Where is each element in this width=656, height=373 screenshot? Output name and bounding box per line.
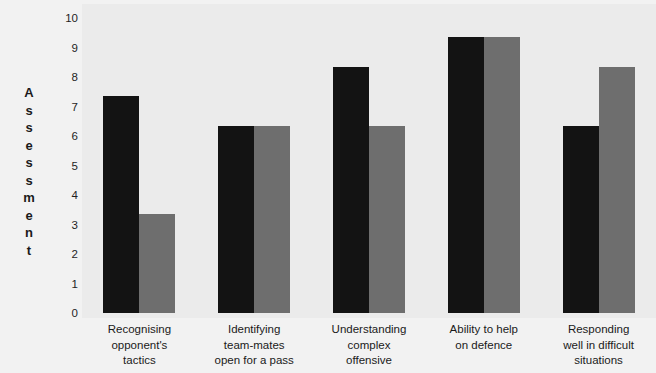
x-axis-category-label: Responding well in difficult situations [541, 322, 656, 369]
bar-chart: A s s e s s m e n t 109876543210 Recogni… [0, 0, 656, 373]
bar [103, 96, 139, 313]
x-axis-category-labels: Recognising opponent's tacticsIdentifyin… [82, 322, 656, 373]
x-axis-category-label: Recognising opponent's tactics [82, 322, 197, 369]
bar [333, 67, 369, 313]
y-axis-tick-label: 1 [52, 278, 78, 290]
y-axis-tick-label: 2 [52, 248, 78, 260]
y-axis-tick-label: 4 [52, 189, 78, 201]
plot-area [82, 4, 656, 318]
y-axis-tick-labels: 109876543210 [52, 0, 78, 373]
y-axis-tick-label: 8 [52, 71, 78, 83]
x-axis-category-label: Identifying team-mates open for a pass [197, 322, 312, 369]
bar [369, 126, 405, 313]
bar [448, 37, 484, 313]
bar [599, 67, 635, 313]
x-axis-category-label: Ability to help on defence [426, 322, 541, 353]
y-axis-tick-label: 10 [52, 12, 78, 24]
y-axis-tick-label: 6 [52, 130, 78, 142]
y-axis-tick-label: 7 [52, 101, 78, 113]
bar [218, 126, 254, 313]
bar [484, 37, 520, 313]
y-axis-tick-label: 3 [52, 219, 78, 231]
y-axis-tick-label: 9 [52, 42, 78, 54]
bar [563, 126, 599, 313]
y-axis-tick-label: 5 [52, 160, 78, 172]
bar [254, 126, 290, 313]
bar [139, 214, 175, 313]
x-axis-category-label: Understanding complex offensive [312, 322, 427, 369]
y-axis-title: A s s e s s m e n t [18, 84, 40, 259]
y-axis-tick-label: 0 [52, 307, 78, 319]
